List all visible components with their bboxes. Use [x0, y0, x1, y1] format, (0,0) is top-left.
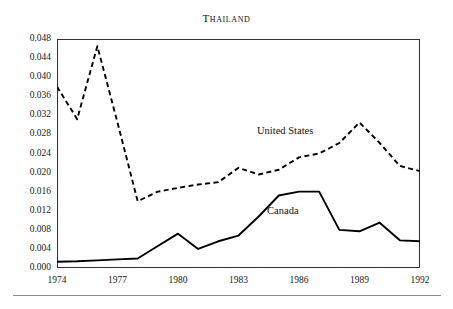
- y-tick-label: 0.036: [7, 90, 51, 100]
- y-tick-label: 0.044: [7, 52, 51, 62]
- y-tick-label: 0.032: [7, 109, 51, 119]
- y-tick-label: 0.016: [7, 186, 51, 196]
- y-tick-label: 0.028: [7, 128, 51, 138]
- y-tick-label: 0.048: [7, 33, 51, 43]
- y-tick-label: 0.012: [7, 205, 51, 215]
- plot-svg: [57, 39, 420, 268]
- series-label-canada: Canada: [267, 205, 299, 216]
- y-tick-label: 0.020: [7, 167, 51, 177]
- tick-marks: [57, 39, 420, 268]
- x-tick-label: 1974: [37, 275, 77, 285]
- chart-title: Thailand: [0, 12, 453, 24]
- x-tick-label: 1977: [98, 275, 138, 285]
- x-tick-label: 1986: [279, 275, 319, 285]
- y-tick-label: 0.024: [7, 148, 51, 158]
- series-lines: [57, 46, 420, 262]
- x-tick-label: 1980: [158, 275, 198, 285]
- x-tick-label: 1992: [400, 275, 440, 285]
- series-line-united-states: [57, 46, 420, 201]
- chart-figure: Thailand 0.0000.0040.0080.0120.0160.0200…: [0, 0, 453, 309]
- y-tick-label: 0.000: [7, 262, 51, 272]
- plot-area: [57, 39, 420, 268]
- bottom-divider: [13, 295, 441, 296]
- y-tick-label: 0.040: [7, 71, 51, 81]
- x-tick-label: 1983: [219, 275, 259, 285]
- y-tick-label: 0.008: [7, 224, 51, 234]
- series-line-canada: [57, 192, 420, 262]
- axis-frame: [58, 40, 420, 268]
- x-tick-label: 1989: [340, 275, 380, 285]
- series-label-united-states: United States: [257, 125, 313, 136]
- y-tick-label: 0.004: [7, 243, 51, 253]
